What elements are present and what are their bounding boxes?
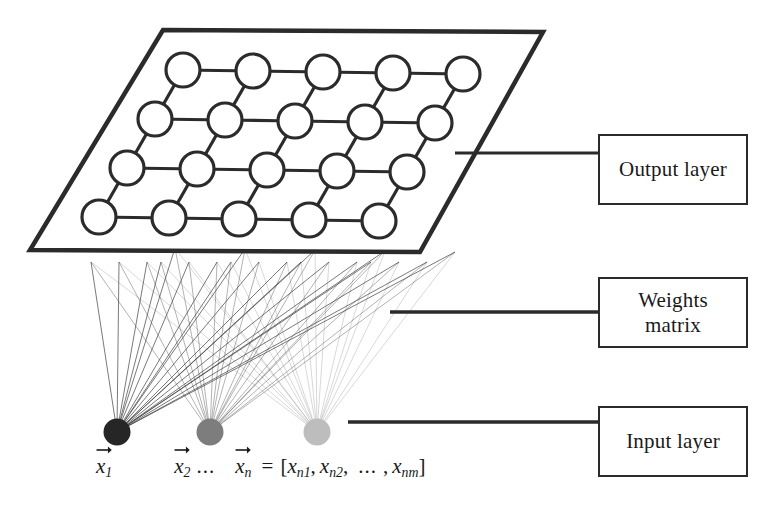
callout-box-input-layer[interactable]: Input layer [598,406,748,477]
output-layer-node[interactable] [292,203,326,237]
vector-subscript-x2: 2 [184,465,191,480]
input-layer-node[interactable] [197,419,224,446]
output-layer-node[interactable] [138,102,172,136]
component-symbol-last: x [392,454,401,478]
output-layer-node[interactable] [82,200,116,234]
output-layer-node[interactable] [390,155,424,189]
legend-separator-3: , [383,454,392,479]
weight-connection-line [301,262,316,419]
output-layer-node[interactable] [362,204,396,238]
callout-box-weights-matrix[interactable]: Weights matrix [598,277,748,348]
lattice-edge [354,171,390,172]
vector-label-x1: x1 [96,452,112,481]
input-vector-legend: x1 x2 ... xn = [ xn1, xn2, ..., xnm ] [96,452,426,494]
weight-connection-line [325,252,455,422]
weight-connection-line [259,262,313,420]
callout-box-output-layer[interactable]: Output layer [598,134,748,205]
lattice-edge [284,170,320,171]
lattice-edge [382,122,418,123]
output-layer-node[interactable] [306,55,340,89]
weight-connection-line [117,262,119,419]
output-layer-node[interactable] [278,104,312,138]
output-layer-node[interactable] [110,151,144,185]
weight-connection-line [315,250,317,419]
output-layer-node[interactable] [236,54,270,88]
legend-close-bracket: ] [419,454,426,479]
output-layer-node[interactable] [152,201,186,235]
lattice-edge [186,218,222,219]
weight-connection-line [128,262,427,426]
lattice-edge [200,70,236,71]
lattice-edge [256,219,292,220]
output-layer-node[interactable] [348,105,382,139]
component-subscript-1: n1 [297,465,311,480]
diagram-root: Output layer Weights matrix Input layer … [0,0,779,516]
vector-symbol-x2: x [174,454,183,478]
callout-label-weights-matrix: Weights matrix [638,288,708,338]
vector-label-x2: x2 [174,452,190,481]
output-layer-node[interactable] [320,154,354,188]
component-subscript-2: n2 [329,465,343,480]
legend-equals-sign: = [252,454,281,479]
output-layer-node[interactable] [250,153,284,187]
vector-subscript-x1: 1 [105,465,112,480]
output-layer-node[interactable] [180,152,214,186]
weight-connection-line [91,262,115,419]
weight-connection-line [120,262,161,419]
legend-component-1: xn1 [287,454,310,481]
vector-subscript-xn: n [245,465,252,480]
weight-connection-line [212,262,231,419]
output-layer-node[interactable] [208,103,242,137]
lattice-edge [410,73,446,74]
lattice-edge [172,119,208,120]
weight-connection-line [128,262,371,425]
lattice-edge [270,71,306,72]
callout-label-input-layer: Input layer [626,429,720,454]
output-layer-node[interactable] [166,53,200,87]
lattice-edge [340,72,376,73]
weight-connection-line [189,262,208,419]
legend-ellipsis: ... [191,454,222,479]
lattice-edge [242,120,278,121]
legend-component-last: xnm [392,454,418,481]
lattice-edge [144,168,180,169]
output-layer-node[interactable] [446,57,480,91]
output-layer-node[interactable] [418,106,452,140]
input-layer-node[interactable] [104,419,131,446]
output-layer-node[interactable] [222,202,256,236]
weight-connection-line [321,262,371,420]
legend-separator-1: , [311,454,320,479]
output-layer-node[interactable] [376,56,410,90]
lattice-edge [116,217,152,218]
lattice-edge [312,121,348,122]
legend-component-2: xn2 [320,454,343,481]
weights-fan-lines [91,248,455,426]
weight-connection-line [121,248,175,420]
vector-label-xn: xn [235,452,251,481]
weight-connection-line [126,262,287,423]
lattice-edge [326,220,362,221]
component-subscript-last: nm [402,465,419,480]
lattice-edge [214,169,250,170]
vector-symbol-xn: x [235,454,244,478]
input-layer-node[interactable] [304,419,331,446]
weight-connection-line [324,262,427,421]
legend-component-ellipsis: ... [352,454,383,479]
legend-separator-2: , [343,454,352,479]
component-symbol-2: x [320,454,329,478]
weight-connection-line [212,249,245,419]
component-symbol-1: x [287,454,296,478]
vector-symbol-x1: x [96,454,105,478]
callout-label-output-layer: Output layer [619,157,727,182]
weight-connection-line [287,262,315,419]
input-layer-nodes [104,419,331,446]
weight-connection-line [219,262,371,423]
